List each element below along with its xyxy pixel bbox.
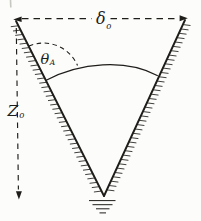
hatch-mark xyxy=(107,190,114,191)
hatch-mark xyxy=(121,159,128,160)
hatch-mark xyxy=(155,86,162,87)
hatch-mark xyxy=(151,94,158,95)
hatch-mark xyxy=(79,161,86,162)
hatch-mark xyxy=(28,61,35,62)
hatch-mark xyxy=(74,152,81,153)
hatch-mark xyxy=(129,142,136,143)
hatch-mark xyxy=(20,43,27,44)
width-arrow-left-icon xyxy=(13,16,21,22)
hatch-mark xyxy=(117,168,124,169)
right-wall xyxy=(104,20,185,196)
label-groove-depth: Zo xyxy=(7,102,25,120)
hatch-mark xyxy=(175,42,182,43)
hatch-mark xyxy=(76,156,83,157)
label-groove-depth-base: Z xyxy=(7,102,19,120)
meniscus-curve xyxy=(46,65,158,81)
hatch-mark xyxy=(177,38,184,39)
hatch-mark xyxy=(50,104,57,105)
hatch-mark xyxy=(35,74,42,75)
hatch-mark xyxy=(33,69,40,70)
hatch-mark xyxy=(127,146,134,147)
hatch-mark xyxy=(26,56,33,57)
hatch-mark xyxy=(143,112,150,113)
label-contact-angle-sub: A xyxy=(49,58,56,67)
label-groove-width: δo xyxy=(96,9,111,31)
hatch-mark xyxy=(135,129,142,130)
apex-ground-hatching xyxy=(89,201,116,213)
hatch-mark xyxy=(92,187,99,188)
hatch-mark xyxy=(181,29,188,30)
hatch-mark xyxy=(183,25,190,26)
hatch-mark xyxy=(149,99,156,100)
hatch-mark xyxy=(22,48,29,49)
hatch-mark xyxy=(15,35,22,36)
hatch-mark xyxy=(11,26,18,27)
hatch-mark xyxy=(41,87,48,88)
label-contact-angle: θA xyxy=(41,51,56,67)
hatch-mark xyxy=(153,90,160,91)
hatch-mark xyxy=(57,117,64,118)
hatch-mark xyxy=(161,73,168,74)
hatch-mark xyxy=(59,122,66,123)
hatch-mark xyxy=(157,81,164,82)
depth-arrow-down-icon xyxy=(16,191,22,199)
hatch-mark xyxy=(169,55,176,56)
label-groove-width-base: δ xyxy=(96,9,106,28)
label-groove-width-sub: o xyxy=(106,21,111,31)
hatch-mark xyxy=(167,59,174,60)
hatch-mark xyxy=(94,191,101,192)
hatch-mark xyxy=(72,148,79,149)
hatch-mark xyxy=(125,151,132,152)
hatch-mark xyxy=(81,165,88,166)
hatch-mark xyxy=(131,138,138,139)
right-wall-hatching xyxy=(107,25,190,191)
hatch-mark xyxy=(39,82,46,83)
hatch-mark xyxy=(109,186,116,187)
v-groove-diagram: δo θA Zo xyxy=(0,0,201,221)
hatch-mark xyxy=(46,95,53,96)
hatch-mark xyxy=(159,77,166,78)
hatch-mark xyxy=(141,116,148,117)
hatch-mark xyxy=(70,143,77,144)
hatch-mark xyxy=(52,108,59,109)
hatch-mark xyxy=(119,164,126,165)
hatch-mark xyxy=(165,64,172,65)
hatch-mark xyxy=(48,100,55,101)
hatch-mark xyxy=(24,52,31,53)
hatch-mark xyxy=(44,91,51,92)
width-arrow-right-icon xyxy=(180,15,188,21)
figure-page: δo θA Zo xyxy=(0,0,201,221)
hatch-mark xyxy=(171,51,178,52)
label-groove-depth-sub: o xyxy=(19,110,24,120)
hatch-mark xyxy=(111,181,118,182)
hatch-mark xyxy=(179,33,186,34)
hatch-mark xyxy=(123,155,130,156)
hatch-mark xyxy=(137,125,144,126)
hatch-mark xyxy=(31,65,38,66)
hatch-mark xyxy=(17,39,24,40)
label-contact-angle-base: θ xyxy=(41,51,50,67)
hatch-mark xyxy=(147,103,154,104)
hatch-mark xyxy=(115,173,122,174)
hatch-mark xyxy=(133,133,140,134)
hatch-mark xyxy=(113,177,120,178)
hatch-mark xyxy=(85,174,92,175)
hatch-mark xyxy=(37,78,44,79)
hatch-mark xyxy=(90,182,97,183)
hatch-mark xyxy=(145,107,152,108)
hatch-mark xyxy=(173,46,180,47)
hatch-mark xyxy=(63,130,70,131)
hatch-mark xyxy=(55,113,62,114)
hatch-mark xyxy=(163,68,170,69)
hatch-mark xyxy=(87,178,94,179)
hatch-mark xyxy=(66,135,73,136)
hatch-mark xyxy=(83,169,90,170)
hatch-mark xyxy=(139,120,146,121)
hatch-mark xyxy=(68,139,75,140)
hatch-mark xyxy=(61,126,68,127)
